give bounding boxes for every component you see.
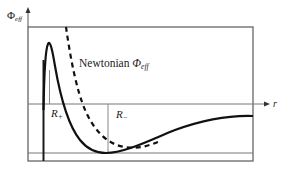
effective-potential-figure: Φeff r Newtonian Φeff R+ R− bbox=[0, 0, 286, 173]
y-axis-label: Φeff bbox=[7, 9, 23, 23]
x-axis-label: r bbox=[273, 98, 277, 109]
relativistic-potential-curve bbox=[44, 43, 254, 153]
r-minus-label: R− bbox=[115, 108, 128, 122]
y-axis-arrowhead-icon bbox=[26, 7, 31, 13]
newtonian-curve-label: Newtonian Φeff bbox=[79, 57, 150, 71]
r-axis-arrowhead-icon bbox=[264, 102, 270, 107]
newtonian-potential-curve bbox=[66, 27, 158, 148]
r-plus-label: R+ bbox=[50, 107, 63, 121]
